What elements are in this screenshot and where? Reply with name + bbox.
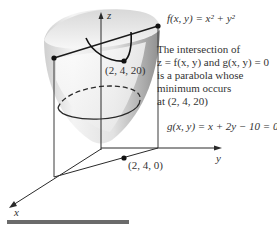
caption-line: The intersection of	[157, 43, 269, 56]
caption-line: at (2, 4, 20)	[157, 95, 269, 108]
point-minimum	[121, 58, 126, 63]
constraint-label: g(x, y) = x + 2y − 10 = 0	[167, 120, 277, 132]
caption-line: z = f(x, y) and g(x, y) = 0	[157, 56, 269, 69]
function-label: f(x, y) = x² + y²	[167, 12, 235, 24]
point-right-top	[155, 23, 160, 28]
point-left-top	[51, 55, 56, 60]
caption-line: is a parabola whose	[157, 69, 269, 82]
point-base	[121, 155, 126, 160]
y-axis-arrow-icon	[214, 146, 222, 151]
paraboloid-figure: z y x (2, 4, 20) (2, 4, 0) f(x, y) = x² …	[0, 0, 277, 230]
divider-bar	[7, 220, 129, 224]
minimum-point-label: (2, 4, 20)	[105, 64, 145, 76]
caption-line: minimum occurs	[157, 82, 269, 95]
z-axis-label: z	[107, 9, 111, 21]
caption: The intersection of z = f(x, y) and g(x,…	[157, 31, 269, 108]
y-axis-label: y	[216, 152, 221, 164]
x-axis-label: x	[14, 206, 19, 218]
paraboloid-surface	[44, 9, 160, 143]
base-point-label: (2, 4, 0)	[128, 159, 163, 171]
